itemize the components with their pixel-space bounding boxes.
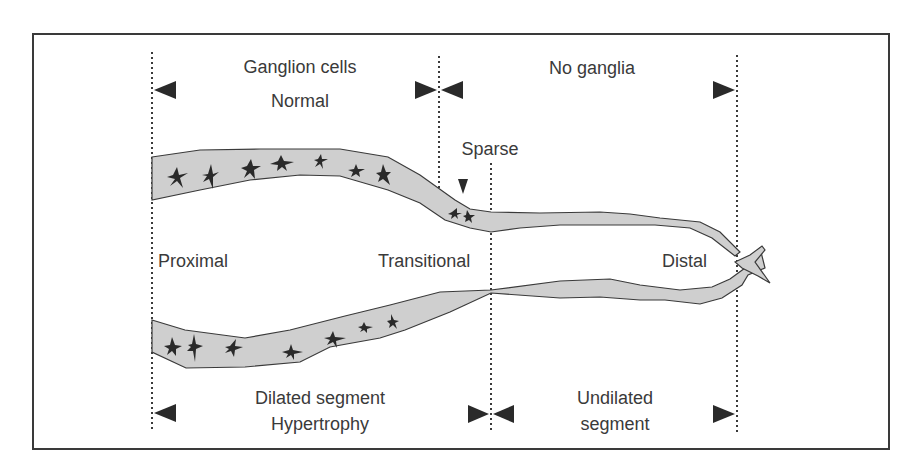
label-segment: segment <box>560 413 670 435</box>
label-distal: Distal <box>662 250 707 272</box>
label-transitional: Transitional <box>378 250 470 272</box>
label-no-ganglia: No ganglia <box>527 57 657 79</box>
label-sparse: Sparse <box>452 138 528 160</box>
arrow-right-icon <box>468 405 489 423</box>
arrow-left-icon <box>154 404 176 422</box>
arrow-right-icon <box>415 81 437 99</box>
label-undilated: Undilated <box>560 387 670 409</box>
arrow-left-icon <box>493 405 514 423</box>
label-hypertrophy: Hypertrophy <box>220 413 420 435</box>
arrow-right-icon <box>713 405 735 423</box>
label-normal: Normal <box>200 90 400 112</box>
bowel-diagram <box>0 0 922 473</box>
label-ganglion-cells: Ganglion cells <box>200 56 400 78</box>
arrow-left-icon <box>154 81 176 99</box>
arrow-down-icon <box>458 179 468 194</box>
arrow-left-icon <box>441 81 463 99</box>
arrow-right-icon <box>713 81 735 99</box>
label-dilated-segment: Dilated segment <box>220 387 420 409</box>
label-proximal: Proximal <box>158 250 228 272</box>
upper-bowel-wall <box>152 149 740 256</box>
